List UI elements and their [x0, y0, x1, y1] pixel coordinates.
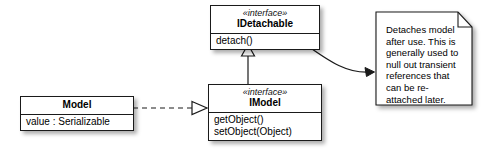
class-box-imodel[interactable]: «interface» IModel getObject() setObject… — [208, 84, 322, 141]
hollow-triangle-arrowhead-imodel — [192, 102, 207, 115]
filled-arrowhead-note — [365, 68, 375, 77]
note-line: references that — [386, 70, 449, 81]
class-name-model: Model — [25, 99, 129, 111]
class-box-idetachable[interactable]: «interface» IDetachable detach() — [210, 5, 320, 50]
note-line: Detaches model — [386, 24, 455, 35]
class-name-idetachable: IDetachable — [215, 18, 315, 30]
relationship-realization-model-imodel — [133, 102, 207, 115]
class-box-model[interactable]: Model value : Serializable — [20, 96, 134, 131]
operations-compartment-idetachable: detach() — [211, 34, 319, 49]
stereotype-interface-idetachable: «interface» — [215, 8, 315, 18]
class-name-imodel: IModel — [213, 97, 317, 109]
note-line: null out transient — [386, 59, 456, 70]
operation-detach: detach() — [216, 35, 319, 47]
note-text: Detaches model after use. This is genera… — [386, 24, 466, 105]
attributes-compartment-model: value : Serializable — [21, 115, 133, 130]
note-line: after use. This is — [386, 36, 456, 47]
operation-setobject: setObject(Object) — [214, 126, 321, 138]
stereotype-interface-imodel: «interface» — [213, 87, 317, 97]
uml-diagram-canvas: IModel : realization --> IDetachable : g… — [0, 0, 490, 149]
class-header-model: Model — [21, 97, 133, 115]
note-line: can be re- — [386, 82, 429, 93]
class-header-idetachable: «interface» IDetachable — [211, 6, 319, 34]
note-line: generally used to — [386, 47, 458, 58]
operation-getobject: getObject() — [214, 114, 321, 126]
note-line: attached later. — [386, 94, 446, 105]
attribute-value: value : Serializable — [26, 116, 133, 128]
note-box[interactable]: Detaches model after use. This is genera… — [376, 12, 472, 105]
class-header-imodel: «interface» IModel — [209, 85, 321, 113]
relationship-generalization-imodel-idetachable — [242, 45, 255, 85]
operations-compartment-imodel: getObject() setObject(Object) — [209, 113, 321, 140]
